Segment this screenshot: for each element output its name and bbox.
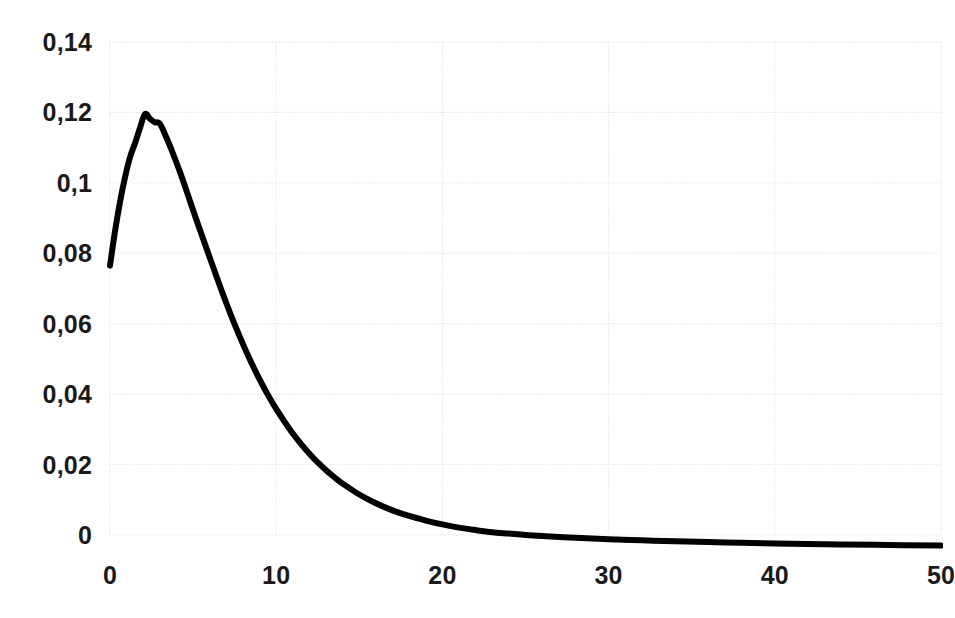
data-series-line <box>110 114 941 546</box>
y-axis-tick-label: 0,02 <box>43 452 92 477</box>
x-axis-tick-label: 40 <box>761 563 789 588</box>
x-axis-tick-label: 0 <box>103 563 117 588</box>
x-axis-tick-label: 10 <box>262 563 290 588</box>
y-axis-tick-label: 0 <box>78 523 92 548</box>
y-axis-tick-label: 0,14 <box>43 30 92 55</box>
x-axis-tick-label: 30 <box>594 563 622 588</box>
y-axis-tick-label: 0,1 <box>57 170 92 195</box>
vertical-gridlines <box>110 42 941 535</box>
y-axis-tick-label: 0,06 <box>43 311 92 336</box>
y-axis-tick-label: 0,12 <box>43 100 92 125</box>
y-axis-tick-label: 0,08 <box>43 241 92 266</box>
horizontal-gridlines <box>110 42 941 535</box>
x-axis-tick-label: 20 <box>428 563 456 588</box>
x-axis-tick-label: 50 <box>927 563 955 588</box>
y-axis-tick-label: 0,04 <box>43 382 92 407</box>
